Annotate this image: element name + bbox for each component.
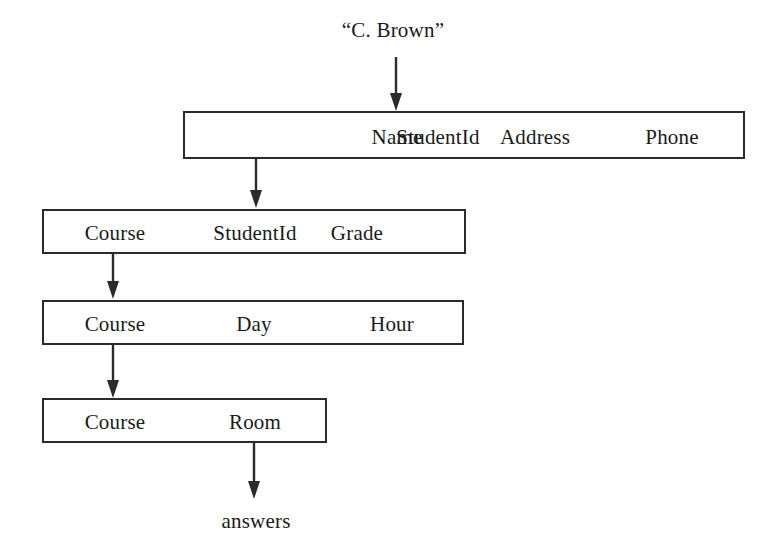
attribute-course-3: Course (85, 412, 146, 433)
room-relation-box: Course Room (42, 398, 327, 443)
diagram-canvas: “C. Brown” StudentId Name Address Phone … (0, 0, 781, 550)
attribute-hour: Hour (370, 314, 414, 335)
attribute-phone: Phone (645, 127, 699, 148)
attribute-course-1: Course (85, 223, 146, 244)
arrow-schedule-to-room (103, 345, 123, 400)
attribute-name: Name (372, 127, 423, 148)
attribute-studentid-2: StudentId (213, 223, 296, 244)
answers-label: answers (221, 511, 290, 532)
enrollment-relation-box: Course StudentId Grade (42, 209, 466, 254)
query-input-label: “C. Brown” (342, 20, 444, 41)
attribute-course-2: Course (85, 314, 146, 335)
arrow-student-to-enrollment (246, 159, 266, 210)
schedule-relation-box: Course Day Hour (42, 300, 464, 345)
student-relation-box: StudentId Name Address Phone (183, 111, 745, 159)
attribute-room: Room (229, 412, 281, 433)
attribute-grade: Grade (331, 223, 383, 244)
arrow-enrollment-to-schedule (103, 254, 123, 301)
attribute-day: Day (236, 314, 272, 335)
output-arrow-to-answers (244, 443, 264, 501)
input-arrow-to-student (386, 55, 406, 113)
attribute-address: Address (500, 127, 570, 148)
